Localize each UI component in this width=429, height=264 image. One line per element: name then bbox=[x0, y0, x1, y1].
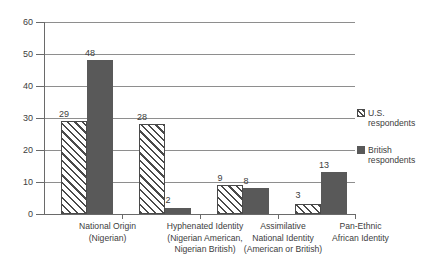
legend-swatch-solid-icon bbox=[357, 146, 365, 154]
category-label-line: National Origin bbox=[49, 221, 166, 233]
x-separator-1 bbox=[122, 214, 123, 219]
x-axis-category-labels: National Origin (Nigerian) Hyphenated Id… bbox=[44, 221, 355, 264]
category-label-hyphenated-identity: Hyphenated Identity (Nigerian American, … bbox=[166, 221, 244, 256]
value-label-uk-pan-ethnic-identity: 13 bbox=[311, 161, 337, 170]
legend-label-line: U.S. bbox=[368, 108, 429, 118]
value-label-us-hyphenated-identity: 28 bbox=[129, 113, 155, 122]
category-label-line: Hyphenated Identity bbox=[166, 221, 244, 233]
y-tick-label-0: 0 bbox=[3, 210, 33, 219]
y-tick-label-10: 10 bbox=[3, 178, 33, 187]
value-label-uk-hyphenated-identity: 2 bbox=[155, 196, 181, 205]
value-label-us-national-origin: 29 bbox=[51, 110, 77, 119]
x-separator-4 bbox=[355, 214, 356, 219]
legend-swatch-hatch-icon bbox=[357, 109, 365, 117]
bar-uk-assimilative-identity[interactable] bbox=[243, 188, 269, 214]
category-label-line: (American or British) bbox=[242, 244, 324, 256]
value-label-uk-assimilative-identity: 8 bbox=[233, 177, 259, 186]
value-label-us-assimilative-identity: 9 bbox=[207, 174, 233, 183]
y-axis-labels: 60 50 40 30 20 10 0 bbox=[0, 0, 33, 264]
bar-us-assimilative-identity[interactable] bbox=[217, 185, 243, 214]
category-label-national-origin: National Origin (Nigerian) bbox=[49, 221, 166, 244]
bar-uk-national-origin[interactable] bbox=[87, 60, 113, 214]
value-label-uk-national-origin: 48 bbox=[77, 49, 103, 58]
y-tick-mark-20 bbox=[36, 150, 44, 151]
category-label-line: National Identity bbox=[242, 233, 324, 245]
legend-item-us-respondents[interactable]: U.S. respondents bbox=[357, 108, 429, 129]
category-label-line: African Identity bbox=[322, 233, 399, 245]
y-tick-label-60: 60 bbox=[3, 18, 33, 27]
value-label-us-pan-ethnic-identity: 3 bbox=[285, 191, 311, 200]
bar-uk-hyphenated-identity[interactable] bbox=[165, 208, 191, 214]
category-label-pan-ethnic-identity: Pan-Ethnic African Identity bbox=[322, 221, 399, 244]
legend-label-line: British bbox=[368, 145, 429, 155]
y-tick-label-30: 30 bbox=[3, 114, 33, 123]
y-tick-label-40: 40 bbox=[3, 82, 33, 91]
legend-item-british-respondents[interactable]: British respondents bbox=[357, 145, 429, 166]
y-tick-mark-30 bbox=[36, 118, 44, 119]
legend-label-line: respondents bbox=[368, 155, 429, 166]
category-label-assimilative-identity: Assimilative National Identity (American… bbox=[242, 221, 324, 256]
y-tick-mark-0 bbox=[36, 214, 44, 215]
bar-us-national-origin[interactable] bbox=[61, 121, 87, 214]
y-tick-mark-50 bbox=[36, 54, 44, 55]
category-label-line: Nigerian British) bbox=[166, 244, 244, 256]
category-label-line: Assimilative bbox=[242, 221, 324, 233]
category-label-line: (Nigerian American, bbox=[166, 233, 244, 245]
y-tick-label-50: 50 bbox=[3, 50, 33, 59]
y-tick-label-20: 20 bbox=[3, 146, 33, 155]
category-label-line: (Nigerian) bbox=[49, 233, 166, 245]
bar-us-pan-ethnic-identity[interactable] bbox=[295, 204, 321, 214]
chart-legend: U.S. respondents British respondents bbox=[357, 108, 429, 182]
x-separator-2 bbox=[200, 214, 201, 219]
y-tick-mark-40 bbox=[36, 86, 44, 87]
y-tick-mark-60 bbox=[36, 22, 44, 23]
x-separator-3 bbox=[278, 214, 279, 219]
legend-label-line: respondents bbox=[368, 118, 429, 129]
grouped-bar-chart: 60 50 40 30 20 10 0 bbox=[0, 0, 429, 264]
category-label-line: Pan-Ethnic bbox=[322, 221, 399, 233]
y-tick-mark-10 bbox=[36, 182, 44, 183]
bar-uk-pan-ethnic-identity[interactable] bbox=[321, 172, 347, 214]
